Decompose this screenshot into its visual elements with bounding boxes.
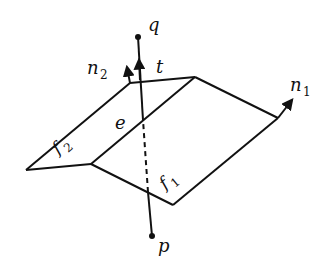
label-n1: n — [290, 74, 302, 95]
segment-pq-lower — [148, 192, 152, 236]
label-e: e — [115, 112, 126, 133]
point-p — [149, 233, 155, 239]
label-p: p — [158, 235, 170, 256]
edge-e — [91, 77, 195, 164]
label-q: q — [148, 14, 160, 35]
normal-n1-arrow-icon — [278, 100, 292, 118]
face-f2-bottom-edge — [26, 164, 91, 170]
label-f2-group: f 2 — [46, 132, 76, 162]
label-t: t — [156, 56, 164, 77]
segment-pq-hidden — [143, 120, 148, 192]
tangent-t-arrow-icon — [139, 60, 140, 80]
label-n2-subscript: 2 — [100, 68, 108, 82]
diagram-canvas: q t n 2 n 1 e f 2 f 1 p — [0, 0, 331, 266]
normal-n2-arrow-icon — [127, 67, 130, 83]
label-f1-group: f 1 — [153, 167, 183, 197]
label-n1-subscript: 1 — [303, 85, 311, 99]
face-f1-top-edge — [195, 77, 278, 118]
face-f1-right-edge — [173, 118, 278, 205]
point-q — [135, 34, 141, 40]
label-n2: n — [87, 57, 99, 78]
